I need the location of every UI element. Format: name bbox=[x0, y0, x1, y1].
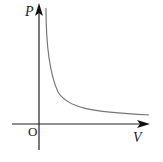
isotherm-curve bbox=[46, 8, 149, 115]
y-axis-label: P bbox=[24, 4, 34, 19]
p-v-diagram: P V O bbox=[0, 0, 163, 162]
origin-label: O bbox=[28, 124, 37, 139]
x-axis-label: V bbox=[133, 130, 143, 145]
